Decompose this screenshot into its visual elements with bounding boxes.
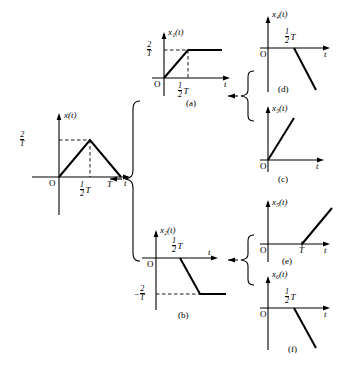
- panel-d-ylabel: x₄(t): [272, 10, 288, 19]
- tick-tail: T: [86, 185, 91, 195]
- panel-c-origin-label: O: [260, 162, 267, 171]
- panel-b: x₂(t) O t − 2 T 1 2 T (b): [138, 222, 230, 314]
- panel-f-taxis-label: t: [324, 310, 327, 319]
- tick-tail: T: [291, 292, 296, 302]
- panel-e-origin-label: O: [260, 246, 267, 255]
- panel-d-tick-half-T: 1 2 T: [285, 28, 296, 46]
- panel-d: x₄(t) O t 1 2 T (d): [258, 6, 340, 94]
- panel-b-taxis-label: t: [208, 248, 211, 257]
- panel-c-ylabel-text: x₃(t): [272, 103, 288, 113]
- tick-denominator: 2: [285, 36, 289, 45]
- brace-path: [241, 235, 254, 285]
- panel-f: x₆(t) O t 1 2 T (f): [258, 268, 340, 356]
- panel-a-origin-label: O: [154, 80, 161, 89]
- brace-arrow-head: [110, 177, 117, 182]
- ramp-down-curve: [294, 308, 316, 348]
- ramp-down-curve: [294, 48, 316, 90]
- brace-path: [241, 71, 254, 121]
- tick-tail: T: [184, 86, 189, 96]
- panel-d-plot: [258, 6, 340, 94]
- panel-f-ylabel-text: x₆(t): [272, 269, 288, 279]
- panel-c-ylabel: x₃(t): [272, 104, 288, 113]
- tick-tail: T: [291, 32, 296, 42]
- panel-b-tick-half-T: 1 2 T: [172, 237, 183, 255]
- y-axis-arrow: [266, 276, 271, 283]
- source-origin-label: O: [49, 179, 56, 188]
- amp-sign: −: [134, 289, 139, 299]
- x-axis-arrow: [211, 256, 218, 261]
- tick-denominator: 2: [285, 296, 289, 305]
- panel-b-caption: (b): [178, 310, 189, 320]
- source-amp-numerator: 2: [20, 131, 24, 139]
- amp-numerator: 2: [147, 41, 151, 49]
- figure-canvas: x(t) O t 2 T 1 2 T T: [0, 0, 342, 367]
- source-amplitude-label: 2 T: [20, 131, 24, 149]
- y-axis-arrow: [154, 230, 159, 237]
- ramp-down-constant-curve: [180, 258, 226, 294]
- panel-a-caption: (a): [186, 98, 196, 108]
- tick-denominator: 2: [172, 245, 176, 254]
- panel-e-tick-T: T: [299, 246, 304, 255]
- tick-denominator: 2: [178, 90, 182, 99]
- ramp-up-curve: [268, 118, 294, 160]
- panel-d-ylabel-text: x₄(t): [272, 9, 288, 19]
- panel-c-plot: [258, 100, 340, 178]
- panel-b-ylabel-text: x₂(t): [160, 225, 176, 235]
- panel-d-taxis-label: t: [324, 50, 327, 59]
- brace-arrow-head: [228, 258, 235, 263]
- panel-a-ylabel: x₁(t): [168, 28, 184, 37]
- ramp-up-constant-curve: [164, 50, 222, 78]
- tick-numerator: 1: [80, 181, 84, 189]
- panel-b-ylabel: x₂(t): [160, 226, 176, 235]
- brace-arrow-head: [228, 94, 235, 99]
- source-ylabel: x(t): [64, 111, 77, 120]
- tick-numerator: 1: [285, 28, 289, 36]
- panel-e-ylabel-text: x₅(t): [272, 197, 288, 207]
- tick-numerator: 1: [172, 237, 176, 245]
- panel-e-plot: [258, 196, 340, 266]
- amp-numerator: 2: [140, 285, 144, 293]
- y-axis-arrow: [266, 16, 271, 23]
- panel-e-caption: (e): [282, 256, 292, 266]
- panel-f-origin-label: O: [260, 310, 267, 319]
- panel-a-ylabel-text: x₁(t): [168, 27, 184, 37]
- panel-e-taxis-label: t: [324, 246, 327, 255]
- panel-d-caption: (d): [278, 84, 289, 94]
- tick-numerator: 1: [285, 288, 289, 296]
- ramp-up-curve: [302, 208, 332, 244]
- tick-denominator: 2: [80, 189, 84, 198]
- amp-denominator: T: [147, 49, 151, 58]
- panel-f-tick-half-T: 1 2 T: [285, 288, 296, 306]
- panel-a: x₁(t) O t 2 T 1 2 T (a): [148, 20, 234, 100]
- source-amp-denominator: T: [20, 139, 24, 148]
- y-axis-arrow: [162, 32, 167, 39]
- panel-f-caption: (f): [288, 344, 297, 354]
- tick-tail: T: [178, 241, 183, 251]
- panel-a-amplitude-label: 2 T: [147, 41, 151, 59]
- y-axis-arrow: [266, 200, 271, 207]
- panel-f-plot: [258, 268, 340, 356]
- panel-d-origin-label: O: [260, 50, 267, 59]
- source-tick-half-T: 1 2 T: [80, 181, 91, 199]
- panel-c-caption: (c): [278, 174, 288, 184]
- panel-a-taxis-label: t: [224, 80, 227, 89]
- panel-e-ylabel: x₅(t): [272, 198, 288, 207]
- y-axis-arrow: [57, 113, 62, 120]
- panel-c: x₃(t) O t (c): [258, 100, 340, 178]
- amp-denominator: T: [140, 293, 144, 302]
- panel-c-taxis-label: t: [316, 162, 319, 171]
- panel-f-ylabel: x₆(t): [272, 270, 288, 279]
- panel-e: x₅(t) O T t (e): [258, 196, 340, 266]
- panel-b-origin-label: O: [147, 260, 154, 269]
- tick-numerator: 1: [178, 82, 182, 90]
- y-axis-arrow: [266, 106, 271, 113]
- panel-b-amplitude-label: − 2 T: [134, 285, 145, 303]
